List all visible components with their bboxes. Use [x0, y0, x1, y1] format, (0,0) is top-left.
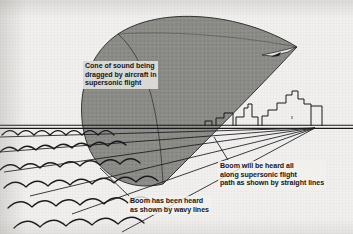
wavy-lines-label: Boom has been heard as shown by wavy lin… [128, 196, 211, 215]
straight-lines-label: Boom will be heard all along supersonic … [218, 161, 326, 189]
wavy-label-line-2: as shown by wavy lines [130, 206, 209, 215]
cone-label-line-3: supersonic flight [85, 79, 156, 88]
cone-of-sound-label: Cone of sound being dragged by aircraft … [83, 61, 158, 89]
sonic-boom-diagram: Cone of sound being dragged by aircraft … [0, 0, 353, 234]
cone-label-line-2: dragged by aircraft in [85, 71, 156, 80]
straight-label-line-1: Boom will be heard all [220, 162, 324, 171]
straight-label-line-3: path as shown by straight lines [220, 179, 324, 188]
cone-label-line-1: Cone of sound being [85, 62, 156, 71]
wavy-label-line-1: Boom has been heard [130, 197, 209, 206]
straight-label-line-2: along supersonic flight [220, 171, 324, 180]
